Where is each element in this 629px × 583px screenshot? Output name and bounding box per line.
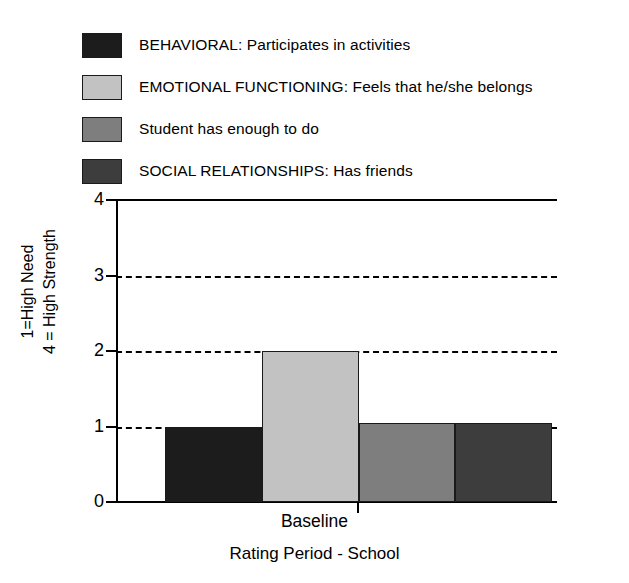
bar-chart-figure: BEHAVIORAL: Participates in activities E… xyxy=(0,0,629,583)
y-tick-mark-2 xyxy=(106,350,117,352)
x-tick-mark-baseline xyxy=(357,503,359,513)
legend-item: EMOTIONAL FUNCTIONING: Feels that he/she… xyxy=(82,66,612,108)
legend-label-behavioral: BEHAVIORAL: Participates in activities xyxy=(139,37,410,53)
legend-label-social-relationships: SOCIAL RELATIONSHIPS: Has friends xyxy=(139,163,413,179)
y-tick-label-0: 0 xyxy=(80,492,104,510)
y-tick-mark-3 xyxy=(106,275,117,277)
legend-swatch-enough-to-do xyxy=(82,117,122,142)
y-tick-label-4: 4 xyxy=(80,190,104,208)
y-tick-mark-4 xyxy=(106,199,117,201)
bar-behavioral xyxy=(165,427,262,503)
legend-item: BEHAVIORAL: Participates in activities xyxy=(82,24,612,66)
x-tick-label-baseline: Baseline xyxy=(0,513,629,531)
legend-swatch-social-relationships xyxy=(82,159,122,184)
legend-item: SOCIAL RELATIONSHIPS: Has friends xyxy=(82,150,612,192)
y-axis-title-line-2: 4 = High Strength xyxy=(39,177,61,407)
y-tick-mark-0 xyxy=(106,501,117,503)
y-tick-label-2: 2 xyxy=(80,341,104,359)
gridline-3 xyxy=(116,276,557,278)
y-tick-label-1: 1 xyxy=(80,417,104,435)
legend-swatch-emotional-functioning xyxy=(82,75,122,100)
legend-label-emotional-functioning: EMOTIONAL FUNCTIONING: Feels that he/she… xyxy=(139,79,533,95)
bar-social-relationships xyxy=(455,423,552,502)
legend-swatch-behavioral xyxy=(82,33,122,58)
legend-label-enough-to-do: Student has enough to do xyxy=(139,121,319,137)
y-tick-label-3: 3 xyxy=(80,266,104,284)
plot-area xyxy=(116,200,557,502)
x-axis-title: Rating Period - School xyxy=(0,545,629,562)
chart-legend: BEHAVIORAL: Participates in activities E… xyxy=(82,24,612,192)
bar-enough-to-do xyxy=(359,423,456,502)
legend-item: Student has enough to do xyxy=(82,108,612,150)
y-axis-title: 1=High Need 4 = High Strength xyxy=(17,177,60,407)
y-tick-mark-1 xyxy=(106,426,117,428)
y-axis-title-line-1: 1=High Need xyxy=(17,177,39,407)
bar-emotional-functioning xyxy=(262,351,359,502)
